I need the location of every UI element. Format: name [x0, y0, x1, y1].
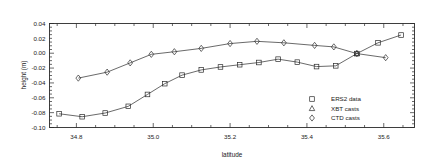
- x-tick-label: 35.2: [224, 133, 237, 140]
- legend-label: CTD casts: [331, 114, 360, 121]
- x-axis-title: latitude: [222, 151, 243, 158]
- y-tick-label: -0.10: [31, 124, 46, 131]
- y-tick-label: -0.04: [31, 79, 46, 86]
- height-vs-latitude-plot: 34.835.035.235.435.6 0.040.020.00-0.02-0…: [0, 0, 429, 165]
- x-tick-label: 35.6: [378, 133, 391, 140]
- legend-label: XBT casts: [331, 105, 359, 112]
- y-tick-label: -0.08: [31, 109, 46, 116]
- legend-label: ERS2 data: [331, 95, 361, 102]
- y-tick-label: 0.00: [33, 49, 46, 56]
- y-tick-label: 0.02: [33, 35, 46, 42]
- y-tick-label: 0.04: [33, 20, 46, 27]
- x-tick-label: 34.8: [70, 133, 83, 140]
- x-tick-label: 35.0: [147, 133, 160, 140]
- y-tick-label: -0.06: [31, 94, 46, 101]
- chart-container: 34.835.035.235.435.6 0.040.020.00-0.02-0…: [0, 0, 429, 165]
- x-tick-label: 35.4: [301, 133, 314, 140]
- y-tick-label: -0.02: [31, 64, 46, 71]
- y-axis-title: height (m): [20, 61, 28, 90]
